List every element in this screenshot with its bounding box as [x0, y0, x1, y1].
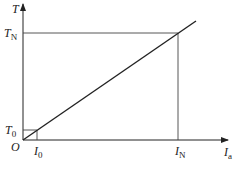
t0-label: T0 [5, 123, 17, 139]
characteristic-line [23, 21, 196, 140]
x-axis-label: Ia [223, 145, 232, 161]
i0-label: I0 [33, 144, 43, 160]
tn-label: TN [4, 26, 18, 42]
y-axis-label: T [12, 2, 20, 16]
origin-label: O [11, 140, 20, 154]
diagram-canvas: T TN T0 O I0 IN Ia [0, 0, 240, 172]
in-label: IN [174, 144, 186, 160]
